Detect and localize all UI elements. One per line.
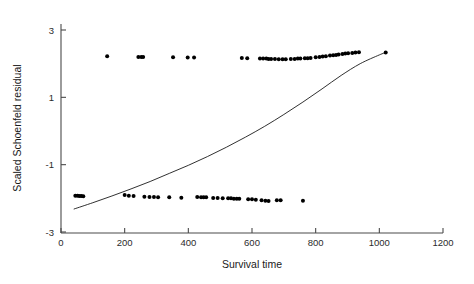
data-point	[298, 57, 302, 61]
y-axis-title: Scaled Schoenfeld residual	[11, 64, 23, 191]
fit-curve	[74, 53, 386, 210]
scatter-points	[73, 50, 387, 203]
data-point	[171, 55, 175, 59]
data-point	[132, 194, 136, 198]
y-axis-ticks: 31-1-3	[46, 25, 66, 238]
data-point	[337, 53, 341, 57]
x-tick-label: 800	[308, 237, 324, 248]
x-axis-ticks: 020040060080010001200	[58, 228, 453, 248]
fit-curve-path	[74, 53, 386, 210]
data-point	[284, 57, 288, 61]
y-tick-label: -3	[46, 227, 54, 238]
plot-axes	[61, 24, 443, 233]
y-tick-label: -1	[46, 159, 54, 170]
data-point	[127, 194, 131, 198]
data-point	[192, 56, 196, 60]
chart-canvas: 020040060080010001200 31-1-3 Survival ti…	[0, 0, 474, 284]
data-point	[123, 193, 127, 197]
data-point	[301, 199, 305, 203]
data-point	[384, 51, 388, 55]
data-point	[179, 196, 183, 200]
data-point	[245, 56, 249, 60]
data-point	[156, 195, 160, 199]
data-point	[289, 57, 293, 61]
data-point	[353, 51, 357, 55]
data-point	[204, 195, 208, 199]
data-point	[142, 195, 146, 199]
x-tick-label: 0	[58, 237, 63, 248]
x-tick-label: 1000	[369, 237, 390, 248]
x-tick-label: 600	[244, 237, 260, 248]
data-point	[324, 54, 328, 58]
data-point	[357, 50, 361, 54]
x-tick-label: 400	[180, 237, 196, 248]
data-point	[186, 56, 190, 60]
data-point	[211, 196, 215, 200]
data-point	[105, 54, 109, 58]
data-point	[81, 194, 85, 198]
data-point	[250, 197, 254, 201]
data-point	[269, 57, 273, 61]
data-point	[267, 199, 271, 203]
x-tick-label: 200	[117, 237, 133, 248]
x-tick-label: 1200	[432, 237, 453, 248]
data-point	[309, 56, 313, 60]
data-point	[147, 195, 151, 199]
data-point	[221, 196, 225, 200]
data-point	[152, 195, 156, 199]
data-point	[141, 55, 145, 59]
data-point	[277, 57, 281, 61]
y-tick-label: 3	[49, 25, 54, 36]
data-point	[275, 198, 279, 202]
data-point	[240, 56, 244, 60]
data-point	[260, 198, 264, 202]
data-point	[273, 57, 277, 61]
y-tick-label: 1	[49, 92, 54, 103]
x-axis-title: Survival time	[222, 258, 282, 270]
data-point	[346, 51, 350, 55]
data-point	[216, 196, 220, 200]
data-point	[167, 195, 171, 199]
data-point	[279, 198, 283, 202]
schoenfeld-residual-chart: 020040060080010001200 31-1-3 Survival ti…	[0, 0, 474, 284]
data-point	[237, 197, 241, 201]
data-point	[246, 197, 250, 201]
data-point	[254, 198, 258, 202]
data-point	[314, 55, 318, 59]
data-point	[195, 195, 199, 199]
